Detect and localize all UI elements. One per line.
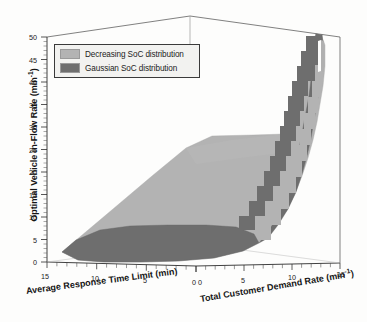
xtick-label-0: 0 <box>192 278 196 287</box>
z-axis-ticks <box>41 37 47 262</box>
z-axis-title-superscript: -1 <box>27 71 34 77</box>
xtick-label-15: 15 <box>41 272 49 281</box>
ztick-label-50: 50 <box>23 33 37 42</box>
legend-label-decreasing-soc: Decreasing SoC distribution <box>85 50 184 59</box>
legend-swatch-decreasing-soc <box>60 49 80 59</box>
legend-swatch-gaussian-soc <box>60 63 80 73</box>
surface-spike-notch <box>318 40 321 72</box>
surface-spike <box>321 40 324 72</box>
legend-label-gaussian-soc: Gaussian SoC distribution <box>85 64 177 73</box>
chart-figure: 50 45 40 35 30 25 20 15 10 5 0 15 10 5 0… <box>0 0 367 322</box>
z-axis-title: Optimal Vehicle in-Flow Rate (min-1) <box>27 50 39 240</box>
chart-legend: Decreasing SoC distribution Gaussian SoC… <box>54 44 200 78</box>
ytick-label-0: 0 <box>198 278 202 287</box>
z-axis-title-tail: ) <box>29 68 39 71</box>
legend-item-decreasing-soc: Decreasing SoC distribution <box>58 48 196 61</box>
ztick-label-0: 0 <box>23 258 37 267</box>
z-axis-title-text: Optimal Vehicle in-Flow Rate (min <box>29 77 39 222</box>
legend-item-gaussian-soc: Gaussian SoC distribution <box>58 62 196 75</box>
